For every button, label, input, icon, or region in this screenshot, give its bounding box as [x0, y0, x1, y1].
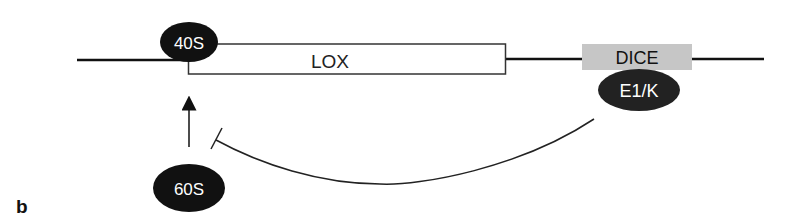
ribosome-40s: 40S — [160, 22, 218, 62]
e1k-protein: E1/K — [598, 69, 680, 111]
dice-element: DICE — [582, 44, 692, 70]
ribosome-60s: 60S — [153, 164, 225, 212]
lox-coding-region: LOX — [189, 44, 506, 74]
e1k-label: E1/K — [619, 81, 658, 101]
40s-label: 40S — [174, 34, 204, 53]
lox-mrna-diagram: LOX 40S DICE E1/K 60S b — [0, 0, 789, 222]
inhibition-arrow-icon — [211, 119, 594, 184]
dice-label: DICE — [615, 48, 658, 68]
panel-label: b — [16, 196, 28, 217]
lox-label: LOX — [311, 51, 349, 72]
60s-label: 60S — [174, 180, 204, 199]
